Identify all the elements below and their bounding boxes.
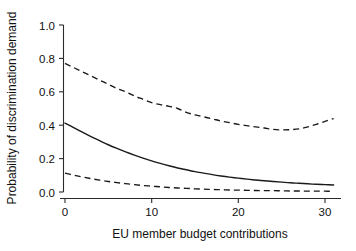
y-axis: 1.0 0.8 0.6 0.4 0.2 0.0 xyxy=(39,20,64,199)
y-axis-title: Probability of discrimination demand xyxy=(5,12,19,205)
x-axis: 0 10 20 30 xyxy=(60,199,341,219)
probability-line-chart: Probability of discrimination demand EU … xyxy=(0,0,356,251)
predicted-probability-curve xyxy=(65,123,334,185)
x-tick-label-10: 10 xyxy=(145,206,158,218)
upper-confidence-curve xyxy=(65,63,334,129)
x-tick-label-30: 30 xyxy=(319,206,332,218)
x-tick-group xyxy=(65,199,325,204)
y-tick-label-1.0: 1.0 xyxy=(39,20,55,32)
chart-figure: Probability of discrimination demand EU … xyxy=(0,0,356,251)
y-tick-label-0.2: 0.2 xyxy=(39,153,55,165)
x-tick-label-20: 20 xyxy=(232,206,245,218)
lower-confidence-curve xyxy=(65,173,334,191)
y-tick-label-0.0: 0.0 xyxy=(39,187,55,199)
x-axis-title: EU member budget contributions xyxy=(112,227,287,241)
y-tick-label-0.6: 0.6 xyxy=(39,86,55,98)
y-tick-group xyxy=(59,25,64,192)
y-tick-label-0.8: 0.8 xyxy=(39,53,55,65)
y-tick-label-0.4: 0.4 xyxy=(39,120,56,132)
data-curves xyxy=(65,63,334,191)
x-tick-label-0: 0 xyxy=(62,206,68,218)
